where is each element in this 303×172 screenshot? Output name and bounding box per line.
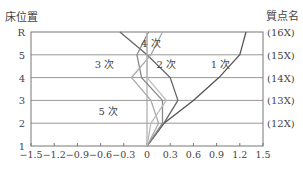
floor-label: R <box>17 27 25 38</box>
mass-name-label: (13X) <box>267 95 295 106</box>
mode-lines <box>120 32 246 146</box>
mass-name-label: (15X) <box>267 50 295 61</box>
y-axis-title: 床位置 <box>5 10 38 24</box>
x-tick-label: 1.5 <box>255 149 270 160</box>
mode-shape-chart: −1.5−1.2−0.9−0.6−0.300.30.60.91.21.51234… <box>0 0 303 172</box>
floor-label: 2 <box>19 118 25 129</box>
x-tick-label: −1.2 <box>43 149 66 160</box>
mass-name-label: (14X) <box>267 73 295 84</box>
x-tick-label: 0.3 <box>163 149 178 160</box>
mode-annotation: 4 次 <box>141 37 161 49</box>
mode-annotation: 5 次 <box>99 105 119 117</box>
x-tick-label: −0.3 <box>112 149 135 160</box>
floor-label: 1 <box>19 141 25 152</box>
floor-label: 4 <box>19 73 25 84</box>
x-tick-label: 0.9 <box>209 149 224 160</box>
x-tick-label: 0 <box>144 149 150 160</box>
x-tick-label: −0.9 <box>66 149 89 160</box>
mode-line <box>147 32 246 146</box>
x-tick-label: 0.6 <box>186 149 201 160</box>
mass-name-label: (16X) <box>267 27 295 38</box>
mode-annotation: 1 次 <box>211 58 231 70</box>
mass-name-title: 質点名 <box>266 9 299 23</box>
floor-label: 5 <box>19 50 25 61</box>
mode-annotation: 2 次 <box>157 58 177 70</box>
mass-name-label: (12X) <box>267 118 295 129</box>
floor-label: 3 <box>19 95 25 106</box>
x-tick-label: −0.6 <box>89 149 112 160</box>
x-tick-label: 1.2 <box>232 149 247 160</box>
mode-annotation: 3 次 <box>95 58 115 70</box>
